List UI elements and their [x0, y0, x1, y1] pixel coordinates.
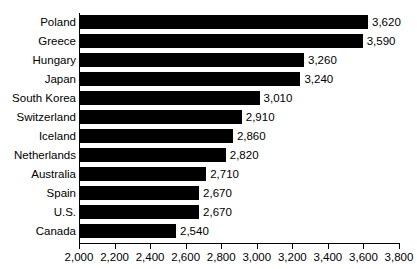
bar [80, 167, 206, 181]
x-axis-line [79, 243, 400, 244]
bar [80, 53, 304, 67]
category-label: South Korea [12, 89, 76, 108]
bar-value-label: 3,620 [368, 15, 401, 29]
category-label: Poland [40, 13, 76, 32]
bar-row: Canada2,540 [0, 222, 417, 241]
bar [80, 205, 199, 219]
category-label: Greece [38, 32, 76, 51]
x-axis-tick-label: 2,200 [100, 251, 129, 263]
x-axis-tick [363, 244, 364, 249]
x-axis-tick [399, 244, 400, 249]
bar-row: Hungary3,260 [0, 51, 417, 70]
category-label: Switzerland [17, 108, 76, 127]
bar-value-label: 2,670 [199, 186, 232, 200]
x-axis-tick-label: 2,600 [171, 251, 200, 263]
bar [80, 186, 199, 200]
bar-row: Australia2,710 [0, 165, 417, 184]
x-axis-tick [292, 244, 293, 249]
bar-row: South Korea3,010 [0, 89, 417, 108]
category-label: Netherlands [14, 146, 76, 165]
bar-value-label: 3,240 [300, 72, 333, 86]
bar-value-label: 2,670 [199, 205, 232, 219]
bar-value-label: 2,820 [226, 148, 259, 162]
bar [80, 224, 176, 238]
bar [80, 91, 260, 105]
x-axis-tick-label: 2,800 [207, 251, 236, 263]
bar [80, 72, 300, 86]
bar [80, 110, 242, 124]
bar [80, 34, 363, 48]
category-label: U.S. [54, 203, 76, 222]
category-label: Japan [45, 70, 76, 89]
bar-container: 2,540 [80, 224, 176, 238]
x-axis-tick [186, 244, 187, 249]
category-label: Iceland [39, 127, 76, 146]
bar-container: 3,240 [80, 72, 300, 86]
category-label: Canada [36, 222, 76, 241]
bar-value-label: 3,590 [363, 34, 396, 48]
bar-container: 2,820 [80, 148, 226, 162]
x-axis-tick-label: 2,400 [136, 251, 165, 263]
x-axis-tick [115, 244, 116, 249]
bar-value-label: 2,710 [206, 167, 239, 181]
bar-value-label: 2,860 [233, 129, 266, 143]
x-axis-tick [221, 244, 222, 249]
bar-row: Spain2,670 [0, 184, 417, 203]
x-axis-tick-label: 3,800 [385, 251, 414, 263]
category-label: Spain [47, 184, 76, 203]
bar-container: 3,620 [80, 15, 368, 29]
category-label: Hungary [33, 51, 76, 70]
bar-container: 3,260 [80, 53, 304, 67]
bar-row: Iceland2,860 [0, 127, 417, 146]
x-axis-tick [328, 244, 329, 249]
bar-value-label: 3,260 [304, 53, 337, 67]
bar-row: Greece3,590 [0, 32, 417, 51]
x-axis-tick [257, 244, 258, 249]
bar-container: 3,010 [80, 91, 260, 105]
bar-row: Switzerland2,910 [0, 108, 417, 127]
bar-value-label: 3,010 [260, 91, 293, 105]
bar-value-label: 2,910 [242, 110, 275, 124]
bar-container: 2,910 [80, 110, 242, 124]
x-axis-tick [79, 244, 80, 249]
x-axis-tick-label: 2,000 [65, 251, 94, 263]
x-axis-tick-label: 3,400 [313, 251, 342, 263]
bar-container: 2,710 [80, 167, 206, 181]
bar-container: 2,860 [80, 129, 233, 143]
category-label: Australia [31, 165, 76, 184]
bar-row: Poland3,620 [0, 13, 417, 32]
bar-row: U.S.2,670 [0, 203, 417, 222]
bar [80, 148, 226, 162]
bar-value-label: 2,540 [176, 224, 209, 238]
x-axis-tick-label: 3,000 [242, 251, 271, 263]
x-axis-tick [150, 244, 151, 249]
bar-row: Japan3,240 [0, 70, 417, 89]
bar-container: 2,670 [80, 205, 199, 219]
bar [80, 129, 233, 143]
x-axis-tick-label: 3,200 [278, 251, 307, 263]
x-axis-tick-label: 3,600 [349, 251, 378, 263]
bar-rows: Poland3,620Greece3,590Hungary3,260Japan3… [0, 13, 417, 241]
bar [80, 15, 368, 29]
bar-chart: Poland3,620Greece3,590Hungary3,260Japan3… [0, 0, 417, 269]
bar-row: Netherlands2,820 [0, 146, 417, 165]
bar-container: 3,590 [80, 34, 363, 48]
y-axis-line [79, 13, 80, 243]
bar-container: 2,670 [80, 186, 199, 200]
